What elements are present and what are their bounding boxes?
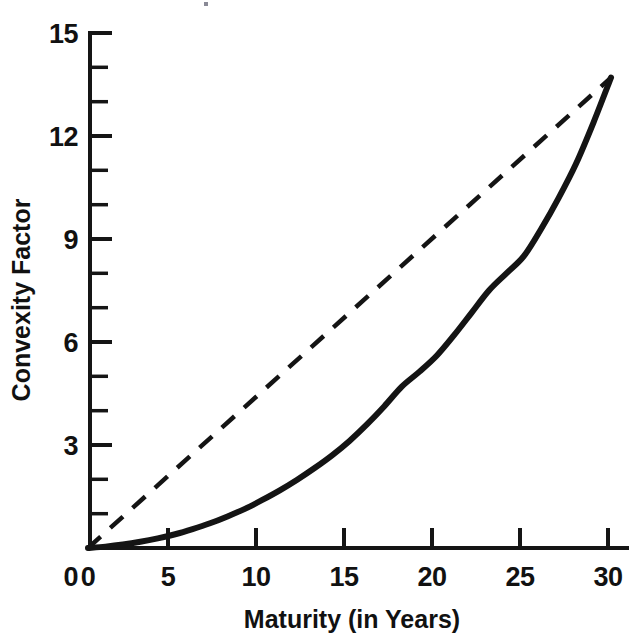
scan-speck — [204, 2, 208, 6]
x-ticklabel-20: 20 — [417, 562, 446, 592]
y-ticklabel-9: 9 — [63, 225, 78, 255]
x-ticklabel-25: 25 — [505, 562, 535, 592]
y-ticklabel-15: 15 — [49, 19, 79, 49]
y-ticklabel-6: 6 — [63, 328, 78, 358]
y-ticklabel-3: 3 — [63, 431, 78, 461]
x-ticklabel-15: 15 — [329, 562, 359, 592]
y-axis-title: Convexity Factor — [7, 198, 35, 401]
axis-lines — [88, 33, 627, 548]
x-axis-ticks — [168, 528, 608, 548]
y-ticklabel-12: 12 — [49, 122, 78, 152]
x-ticklabel-30: 30 — [593, 562, 622, 592]
convexity-chart-figure: 15 12 9 6 3 0 0 5 10 15 20 25 30 — [0, 0, 643, 641]
x-ticklabel-10: 10 — [241, 562, 270, 592]
linear-reference-dashed-line — [88, 78, 611, 548]
y-axis-ticks — [90, 33, 112, 548]
x-ticklabel-0: 0 — [81, 562, 96, 592]
y-ticklabel-0: 0 — [63, 562, 78, 592]
y-axis-tick-labels: 15 12 9 6 3 0 — [49, 19, 79, 592]
x-axis-title: Maturity (in Years) — [244, 605, 460, 633]
x-ticklabel-5: 5 — [161, 562, 176, 592]
chart-canvas: 15 12 9 6 3 0 0 5 10 15 20 25 30 — [0, 0, 643, 641]
data-series-group — [88, 78, 611, 548]
x-axis-tick-labels: 0 5 10 15 20 25 30 — [81, 562, 623, 592]
